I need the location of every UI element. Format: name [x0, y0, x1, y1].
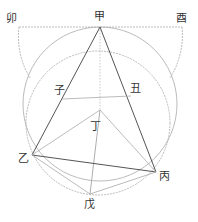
label-bing: 丙 — [159, 170, 170, 183]
label-chou: 丑 — [130, 82, 141, 95]
geometry-diagram: 卯 甲 酉 子 丑 丁 乙 丙 戊 — [0, 0, 198, 222]
label-ding: 丁 — [90, 120, 101, 133]
line-zi-chou — [62, 96, 131, 99]
label-mao: 卯 — [6, 12, 17, 25]
label-wu: 戊 — [84, 198, 95, 211]
arc-right-quarter — [170, 27, 182, 78]
line-jia-yi — [32, 27, 100, 155]
label-zi: 子 — [54, 84, 65, 97]
line-wu-yi — [32, 155, 90, 194]
upper-circle — [23, 27, 177, 181]
label-jia: 甲 — [94, 10, 105, 23]
line-ding-bing — [100, 110, 156, 172]
label-yi: 乙 — [18, 152, 29, 165]
label-you: 酉 — [176, 12, 187, 25]
arc-left-quarter — [18, 27, 30, 78]
line-jia-bing — [100, 27, 156, 172]
